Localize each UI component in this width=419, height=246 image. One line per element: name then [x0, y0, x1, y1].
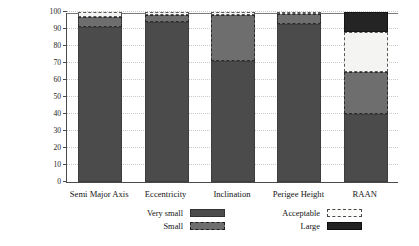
legend-swatch [190, 222, 225, 230]
bar-segment-very-small[interactable] [277, 24, 321, 182]
x-axis-label: Semi Major Axis [66, 189, 132, 199]
y-axis-tick-label: 40 [53, 110, 61, 118]
x-axis-label: Perigee Height [265, 189, 331, 199]
bar-segment-very-small[interactable] [344, 114, 388, 182]
y-axis-tick-label: 0 [57, 178, 61, 186]
legend-entry[interactable]: Large [262, 221, 362, 231]
bar-slot [266, 13, 332, 182]
bar-segment-acceptable[interactable] [277, 12, 321, 14]
legend-label: Large [262, 222, 320, 231]
bar-segment-small[interactable] [277, 14, 321, 24]
y-axis-tick-label: 100 [50, 8, 61, 16]
x-axis-label: Inclination [199, 189, 265, 199]
bar-segment-very-small[interactable] [145, 22, 189, 182]
y-axis-tick-label: 10 [53, 161, 61, 169]
y-axis-tick-label: 50 [53, 93, 61, 101]
x-axis-label: Eccentricity [132, 189, 198, 199]
bar-slot [67, 13, 133, 182]
legend-entry[interactable]: Very small [125, 208, 225, 218]
bar-segment-large[interactable] [344, 12, 388, 32]
y-axis-tick-label: 20 [53, 144, 61, 152]
bar-segment-small[interactable] [145, 15, 189, 22]
legend-label: Small [125, 222, 183, 231]
bar-slot [200, 13, 266, 182]
legend-entry[interactable]: Acceptable [262, 208, 362, 218]
bar-segment-small[interactable] [344, 72, 388, 115]
bar-segment-acceptable[interactable] [78, 12, 122, 17]
legend-swatch [327, 209, 362, 217]
y-axis-tick-label: 60 [53, 76, 61, 84]
y-axis-tick-label: 70 [53, 59, 61, 67]
y-axis-tick-label: 30 [53, 127, 61, 135]
legend-entry[interactable]: Small [125, 221, 225, 231]
y-axis-tick-label: 80 [53, 42, 61, 50]
bar-slot [133, 13, 199, 182]
bar-segment-very-small[interactable] [211, 61, 255, 182]
bar-segment-small[interactable] [78, 17, 122, 27]
y-axis-tick-label: 90 [53, 25, 61, 33]
x-axis-label: RAAN [332, 189, 398, 199]
plot-area: 0102030405060708090100 [66, 13, 398, 183]
stacked-bar-chart-figure: Deviating Objects [per cent] 01020304050… [0, 0, 419, 246]
legend-label: Acceptable [262, 209, 320, 218]
legend-label: Very small [125, 209, 183, 218]
legend-swatch [190, 209, 225, 217]
bar-segment-very-small[interactable] [78, 27, 122, 182]
bar-segment-acceptable[interactable] [211, 12, 255, 15]
bar-slot [333, 13, 399, 182]
bar-segment-small[interactable] [211, 15, 255, 61]
y-axis-tick [63, 11, 68, 12]
bar-segment-acceptable[interactable] [145, 12, 189, 15]
chart-legend: Very smallAcceptableSmallLarge [0, 208, 419, 242]
bar-segment-acceptable[interactable] [344, 32, 388, 71]
legend-swatch [327, 222, 362, 230]
